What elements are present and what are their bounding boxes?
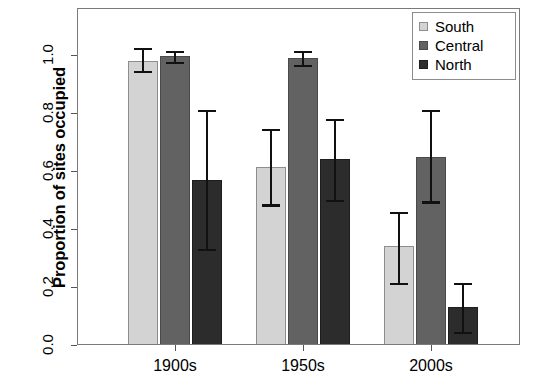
y-tick-label: 0.0 xyxy=(39,325,56,365)
x-tick-mark xyxy=(175,345,176,351)
legend-swatch-central-icon xyxy=(419,41,428,50)
y-tick-label: 0.8 xyxy=(39,93,56,133)
x-tick-label-1900s: 1900s xyxy=(130,357,220,375)
legend-label-central: Central xyxy=(435,38,483,53)
x-tick-mark xyxy=(431,345,432,351)
legend: South Central North xyxy=(412,12,516,80)
bar-chart-figure: Proportion of sites occupied 0.00.20.40.… xyxy=(0,0,535,389)
x-tick-label-2000s: 2000s xyxy=(386,357,476,375)
y-tick-label: 0.4 xyxy=(39,209,56,249)
legend-item-central: Central xyxy=(419,36,510,55)
x-tick-mark xyxy=(303,345,304,351)
legend-label-north: North xyxy=(435,57,472,72)
legend-item-north: North xyxy=(419,55,510,74)
y-tick-mark xyxy=(71,345,77,346)
y-tick-label: 0.2 xyxy=(39,267,56,307)
legend-label-south: South xyxy=(435,19,474,34)
x-tick-label-1950s: 1950s xyxy=(258,357,348,375)
y-tick-label: 0.6 xyxy=(39,151,56,191)
y-tick-label: 1.0 xyxy=(39,35,56,75)
legend-swatch-south-icon xyxy=(419,22,428,31)
legend-item-south: South xyxy=(419,17,510,36)
legend-swatch-north-icon xyxy=(419,60,428,69)
